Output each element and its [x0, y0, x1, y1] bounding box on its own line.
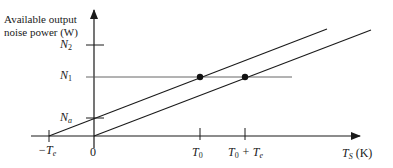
label-n2: N2: [60, 37, 72, 52]
noise-temperature-diagram: Available output noise power (W) N2 N1 N…: [0, 0, 393, 168]
x-axis-label: TS (K): [342, 146, 372, 161]
label-minus-te: −Te: [38, 143, 56, 158]
point-t0te-n1: [242, 74, 248, 80]
label-t0-plus-te: T0 + Te: [228, 145, 263, 160]
point-t0-n1: [197, 74, 203, 80]
label-origin: 0: [90, 145, 96, 160]
label-na: Na: [60, 110, 72, 125]
line-from-origin: [94, 30, 371, 136]
y-axis-label: Available output noise power (W): [4, 13, 78, 39]
label-n1: N1: [60, 68, 72, 83]
label-t0: T0: [192, 145, 203, 160]
y-axis-label-line1: Available output: [4, 13, 78, 26]
